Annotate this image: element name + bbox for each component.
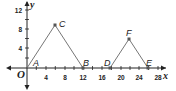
triangle-def: D F E [104,28,153,70]
point-e-label: E [146,58,153,68]
y-tick-4: 4 [18,45,22,52]
origin-label: O [17,68,25,80]
x-tick-24: 24 [135,74,143,81]
point-c-marker [54,24,57,27]
x-axis-label: x [162,70,168,81]
coordinate-plane: 4 8 12 16 20 24 28 x 12 8 4 y O A C B [0,0,176,91]
point-d-label: D [104,58,111,68]
x-tick-20: 20 [117,74,125,81]
x-tick-12: 12 [79,74,87,81]
point-f-label: F [126,28,132,38]
point-a-label: A [32,58,39,68]
x-axis-left-arrow-icon [6,66,11,71]
x-tick-28: 28 [154,74,162,81]
y-tick-8: 8 [18,26,22,33]
y-axis-label: y [29,0,35,10]
y-tick-12: 12 [15,7,23,14]
triangle-abc: A C B [27,19,89,70]
y-axis-arrow-icon [25,1,30,6]
point-c-label: C [59,19,66,29]
y-axis-down-arrow-icon [25,85,30,90]
x-tick-8: 8 [63,74,67,81]
y-axis: 12 8 4 y O [15,0,35,90]
x-tick-4: 4 [44,74,48,81]
point-b-label: B [83,58,89,68]
x-tick-16: 16 [98,74,106,81]
